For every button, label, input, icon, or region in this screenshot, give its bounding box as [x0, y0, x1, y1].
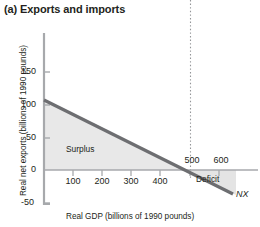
x-tick-label-400: 400: [147, 176, 173, 186]
x-tick-label-200: 200: [89, 176, 115, 186]
figure-panel: (a) Exports and imports 150 100 50 0 -50: [0, 0, 260, 227]
nx-curve-label: NX: [236, 189, 249, 199]
deficit-region-label: Deficit: [196, 174, 219, 184]
surplus-region-label: Surplus: [66, 144, 94, 154]
chart-plot-area: [0, 0, 260, 227]
x-tick-label-300: 300: [118, 176, 144, 186]
x-tick-label-600: 600: [208, 155, 234, 165]
x-axis-title: Real GDP (billions of 1990 pounds): [66, 212, 194, 221]
x-tick-label-100: 100: [60, 176, 86, 186]
x-tick-label-500: 500: [179, 155, 205, 165]
y-axis-title: Real net exports (billions of 1990 pound…: [19, 36, 28, 206]
